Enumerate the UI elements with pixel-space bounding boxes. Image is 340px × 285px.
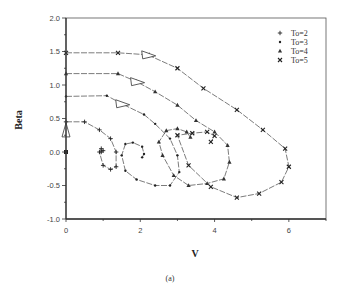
phase-plot: 0246-1.0-0.50.00.51.01.52.0 To=2To=3To=4… xyxy=(0,0,340,285)
x-tick-label: 6 xyxy=(287,226,291,235)
dot-marker xyxy=(176,154,178,156)
cross-marker xyxy=(201,86,205,90)
dot-marker xyxy=(279,41,281,43)
series-line xyxy=(66,122,116,170)
plus-marker xyxy=(114,150,118,154)
y-axis-label: Beta xyxy=(13,110,24,129)
plus-marker xyxy=(101,163,105,167)
cross-marker xyxy=(261,128,265,132)
cross-marker xyxy=(278,58,282,62)
cross-marker xyxy=(187,163,191,167)
legend-label: To=2 xyxy=(291,29,308,38)
x-tick-label: 4 xyxy=(212,226,216,235)
triangle-marker xyxy=(212,130,216,134)
triangle-marker xyxy=(227,160,231,164)
figure-caption: (a) xyxy=(166,274,175,283)
dot-marker xyxy=(143,113,145,115)
series-to-4 xyxy=(64,71,232,187)
dot-marker xyxy=(121,154,123,156)
y-tick-label: 1.5 xyxy=(50,47,60,56)
cross-marker xyxy=(209,140,213,144)
y-tick-label: 0.0 xyxy=(50,148,60,157)
triangle-marker xyxy=(153,89,157,93)
series-to-3 xyxy=(65,95,181,187)
plus-marker xyxy=(278,31,282,35)
triangle-marker xyxy=(222,177,226,181)
dot-marker xyxy=(135,178,137,180)
x-tick-label: 0 xyxy=(64,226,68,235)
legend-label: To=5 xyxy=(291,56,308,65)
series-line xyxy=(66,96,179,186)
dot-marker xyxy=(141,156,143,158)
dot-marker xyxy=(106,95,108,97)
y-tick-label: 0.5 xyxy=(50,114,60,123)
dot-marker xyxy=(124,170,126,172)
dot-marker xyxy=(178,171,180,173)
series-line xyxy=(66,53,289,198)
plot-area xyxy=(62,51,291,200)
triangle-marker xyxy=(278,49,282,53)
series-to-5 xyxy=(64,51,291,200)
legend: To=2To=3To=4To=5 xyxy=(278,29,308,65)
y-tick-label: 1.0 xyxy=(50,81,60,90)
dot-marker xyxy=(141,145,143,147)
triangle-marker xyxy=(172,173,176,177)
y-tick-label: -1.0 xyxy=(47,215,60,224)
x-tick-label: 2 xyxy=(138,226,142,235)
dot-marker xyxy=(124,143,126,145)
dot-marker xyxy=(143,153,145,155)
legend-label: To=3 xyxy=(291,38,308,47)
cross-marker xyxy=(209,185,213,189)
triangle-marker xyxy=(194,118,198,122)
triangle-marker xyxy=(160,153,164,157)
series-to-2 xyxy=(64,120,119,172)
dot-marker xyxy=(169,184,171,186)
y-tick-label: 2.0 xyxy=(50,14,60,23)
cross-marker xyxy=(175,66,179,70)
direction-arrow-icon xyxy=(131,78,145,86)
plus-marker xyxy=(114,165,118,169)
plus-marker xyxy=(82,120,86,124)
dot-marker xyxy=(132,141,134,143)
cross-marker xyxy=(279,180,283,184)
triangle-marker xyxy=(175,103,179,107)
y-tick-label: -0.5 xyxy=(47,181,60,190)
cross-marker xyxy=(235,108,239,112)
triangle-marker xyxy=(175,126,179,130)
legend-label: To=4 xyxy=(291,47,308,56)
dot-marker xyxy=(154,184,156,186)
dot-marker xyxy=(154,123,156,125)
plus-marker xyxy=(108,167,112,171)
cross-marker xyxy=(213,134,217,138)
x-axis-label: V xyxy=(191,248,199,259)
dot-marker xyxy=(169,137,171,139)
